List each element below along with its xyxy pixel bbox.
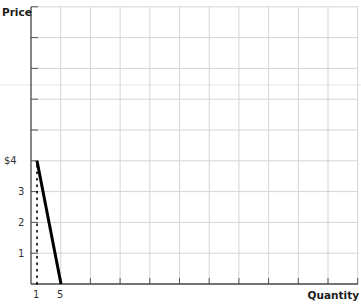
y-tick-label-2: 2 <box>18 217 24 228</box>
y-tick-label-1: 1 <box>18 248 24 259</box>
y-tick-label-3: 3 <box>18 186 24 197</box>
x-axis-title: Quantity <box>308 289 359 301</box>
chart-canvas <box>0 0 361 304</box>
y-axis-title: Price <box>2 6 32 18</box>
x-tick-label-1: 1 <box>33 289 39 300</box>
y-tick-label-4: $4 <box>4 155 17 166</box>
x-tick-label-5: 5 <box>57 289 63 300</box>
